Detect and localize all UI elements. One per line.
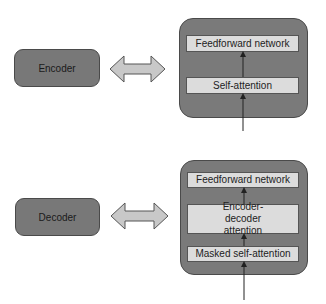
decoder-double-arrow-icon [111, 203, 168, 229]
encoder-double-arrow-icon [110, 56, 165, 82]
arrows-overlay [0, 0, 326, 304]
